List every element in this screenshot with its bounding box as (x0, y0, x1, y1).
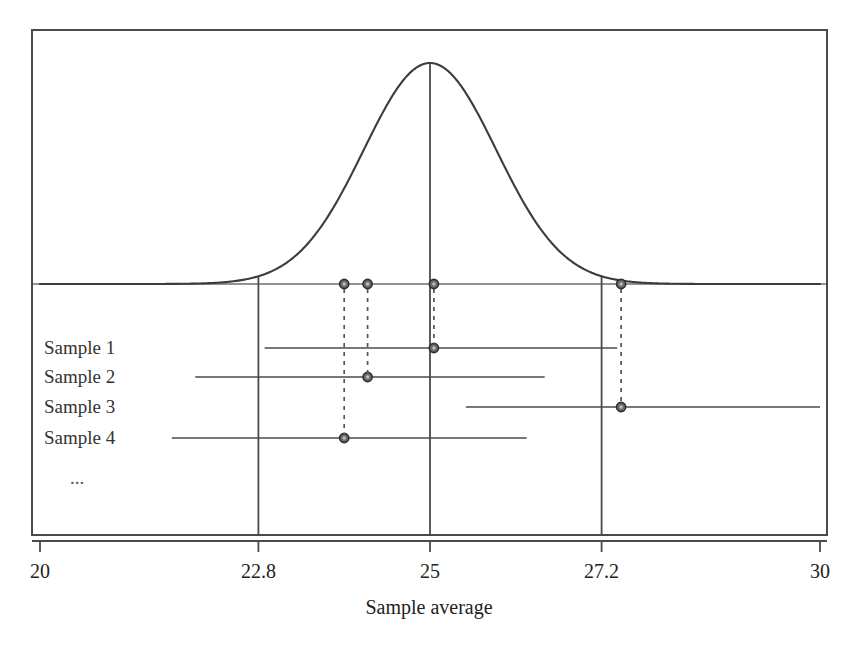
x-tick-label-20: 20 (30, 560, 50, 582)
baseline-marker-3 (617, 279, 626, 288)
baseline-marker-1 (429, 279, 438, 288)
sample-label-1: Sample 1 (44, 337, 115, 358)
point-estimate-marker-4 (340, 433, 349, 442)
x-tick-label-22-8: 22.8 (241, 560, 276, 582)
x-tick-label-25: 25 (420, 560, 440, 582)
point-estimate-marker-3 (617, 402, 626, 411)
confidence-interval-figure: Sample 1Sample 2Sample 3Sample 4 ... 202… (0, 0, 858, 647)
baseline-marker-2 (363, 279, 372, 288)
point-estimate-marker-2 (363, 372, 372, 381)
baseline-marker-4 (340, 279, 349, 288)
sample-label-2: Sample 2 (44, 366, 115, 387)
figure-background (0, 0, 858, 647)
figure-container: Sample 1Sample 2Sample 3Sample 4 ... 202… (0, 0, 858, 647)
x-axis-title: Sample average (365, 596, 492, 619)
sample-label-3: Sample 3 (44, 396, 115, 417)
sample-label-4: Sample 4 (44, 427, 116, 448)
x-tick-label-30: 30 (810, 560, 830, 582)
ellipsis-label: ... (70, 467, 84, 488)
point-estimate-marker-1 (429, 343, 438, 352)
x-tick-label-27-2: 27.2 (584, 560, 619, 582)
